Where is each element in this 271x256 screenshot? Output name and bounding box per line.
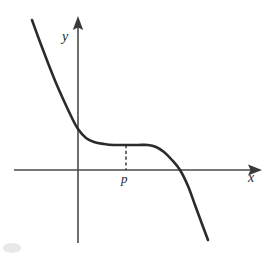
x-axis <box>14 165 262 176</box>
graph-figure: y x p <box>0 0 271 256</box>
x-axis-label: x <box>248 171 254 185</box>
cubic-curve <box>32 20 208 240</box>
scan-speck <box>3 243 21 253</box>
y-axis-label: y <box>62 30 68 44</box>
graph-canvas <box>0 0 271 256</box>
p-tick-label: p <box>121 172 128 185</box>
